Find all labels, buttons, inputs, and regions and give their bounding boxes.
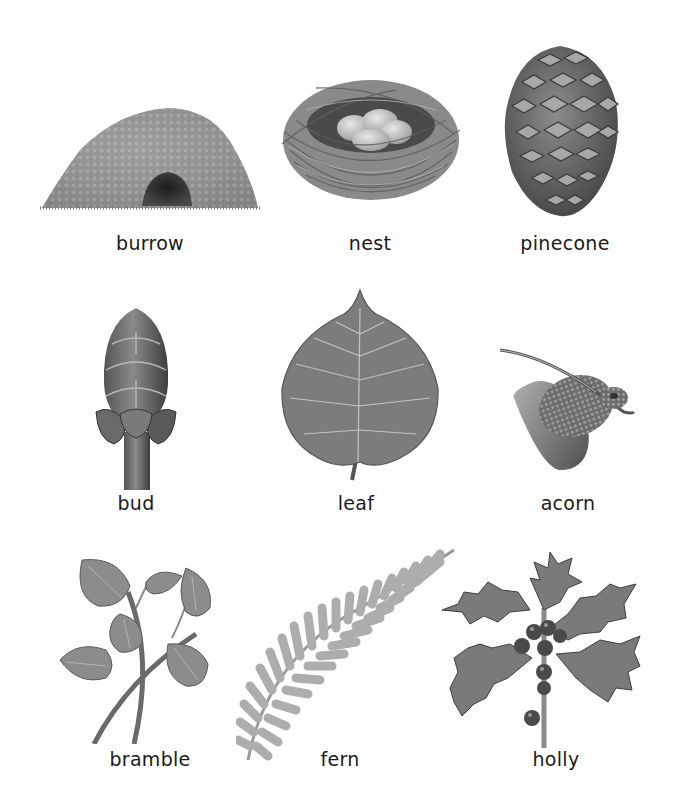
- item-leaf: [280, 288, 440, 482]
- label-bramble: bramble: [50, 748, 250, 770]
- item-acorn: [496, 342, 640, 482]
- nest-icon: [276, 70, 466, 220]
- label-nest: nest: [270, 232, 470, 254]
- label-burrow: burrow: [50, 232, 250, 254]
- item-holly: [440, 548, 660, 748]
- acorn-icon: [496, 342, 640, 482]
- label-bud: bud: [36, 492, 236, 514]
- bramble-icon: [58, 548, 218, 744]
- item-fern: [236, 546, 458, 766]
- leaf-icon: [280, 288, 440, 482]
- holly-icon: [440, 548, 660, 748]
- label-leaf: leaf: [256, 492, 456, 514]
- label-pinecone: pinecone: [465, 232, 665, 254]
- item-bramble: [58, 548, 218, 744]
- item-nest: [276, 70, 466, 220]
- fern-icon: [236, 546, 458, 766]
- label-fern: fern: [240, 748, 440, 770]
- label-acorn: acorn: [468, 492, 668, 514]
- label-holly: holly: [456, 748, 656, 770]
- item-pinecone: [498, 42, 628, 222]
- item-bud: [88, 304, 184, 490]
- pinecone-icon: [498, 42, 628, 222]
- bud-icon: [88, 304, 184, 490]
